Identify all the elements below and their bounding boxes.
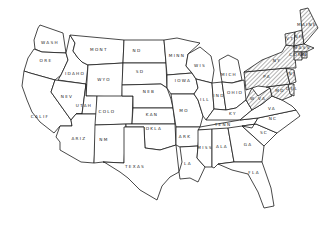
state-label-ut: UTAH (76, 103, 93, 108)
state-label-il: ILL (200, 97, 210, 102)
state-label-ma: MASS (294, 45, 311, 50)
state-label-tn: TENN (214, 122, 232, 127)
state-wa (34, 25, 66, 53)
state-label-ky: KY (229, 111, 237, 116)
state-label-mo: MO (179, 108, 189, 113)
state-ny (244, 45, 296, 72)
state-label-wi: WIS (194, 63, 206, 68)
state-label-ga: GA (244, 142, 253, 147)
state-label-pa: PA (263, 74, 271, 79)
state-label-ok: OKLA (146, 126, 163, 131)
state-label-mn: MINN (169, 53, 185, 58)
state-label-ar: ARK (179, 134, 191, 139)
state-label-va: VA (268, 106, 276, 111)
state-label-ri: RI (301, 52, 308, 57)
state-label-sd: SD (136, 69, 144, 74)
state-label-ny: NY (273, 58, 281, 63)
state-label-ks: KAN (146, 112, 159, 117)
state-label-nc: NC (269, 116, 278, 121)
state-label-id: IDAHO (65, 71, 85, 76)
state-label-nd: ND (133, 48, 142, 53)
state-label-me: MAINE (297, 22, 317, 27)
state-label-mi: MICH (221, 72, 237, 77)
state-mi (219, 55, 242, 83)
state-label-sc: SC (260, 130, 268, 135)
state-label-al: ALA (216, 144, 228, 149)
state-label-nj: NJ (289, 71, 296, 76)
state-label-mt: MONT (90, 47, 108, 52)
state-label-az: ARIZ (71, 136, 86, 141)
state-label-nm: NM (99, 137, 108, 142)
state-label-nv: NEV (61, 94, 74, 99)
state-nm (94, 124, 126, 163)
state-label-ia: IOWA (175, 78, 192, 83)
state-label-fl: FLA (248, 170, 260, 175)
state-label-wy: WYO (97, 77, 111, 82)
state-label-or: ORE (40, 58, 53, 63)
state-label-nh: NH (295, 34, 304, 39)
state-nd (123, 40, 166, 63)
state-fl (218, 162, 274, 208)
us-map: WASHORECALIFIDAHONEVMONTWYOUTAHARIZCOLON… (0, 0, 334, 230)
state-label-co: COLO (99, 109, 116, 114)
state-label-ms: MISS (197, 145, 212, 150)
state-label-tx: TEXAS (124, 164, 145, 169)
state-label-wv: W VA (250, 96, 266, 101)
state-label-ne: NEB (143, 89, 156, 94)
state-label-oh: OHIO (227, 90, 243, 95)
state-ia (167, 73, 198, 94)
state-label-md: MD (275, 88, 284, 93)
state-label-vt: VT (286, 36, 294, 41)
state-label-in: IND (213, 93, 225, 98)
state-label-ca: CALIF (31, 114, 49, 119)
state-label-de: DEL (286, 86, 298, 91)
state-label-la: LA (184, 161, 192, 166)
state-label-wa: WASH (41, 40, 59, 45)
